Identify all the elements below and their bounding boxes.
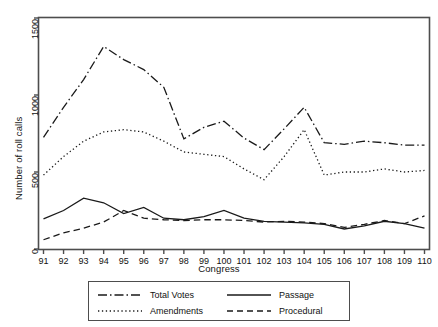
x-tick-label: 110 xyxy=(417,256,433,266)
x-tick-label: 106 xyxy=(336,256,352,266)
x-tick-label: 98 xyxy=(176,256,192,266)
x-tick-label: 91 xyxy=(36,256,52,266)
y-axis-title-wrap: Number of roll calls xyxy=(0,0,16,260)
y-axis-title: Number of roll calls xyxy=(13,117,24,200)
chart-figure: Number of roll calls Congress 0500100015… xyxy=(0,0,438,327)
x-tick-label: 102 xyxy=(256,256,272,266)
y-tick-label: 1500 xyxy=(30,19,40,39)
y-tick-label: 1000 xyxy=(30,96,40,116)
legend-item-procedural: Procedural xyxy=(226,303,323,319)
x-tick-label: 93 xyxy=(76,256,92,266)
legend-item-total-votes: Total Votes xyxy=(97,287,194,303)
y-tick-label: 0 xyxy=(30,249,40,254)
plot-canvas xyxy=(0,0,438,327)
data-series-group xyxy=(44,46,425,239)
x-tick-label: 96 xyxy=(136,256,152,266)
legend-label: Total Votes xyxy=(150,290,194,300)
legend-label: Passage xyxy=(279,290,314,300)
chart-legend: Total Votes Passage Amendments Procedura… xyxy=(88,281,350,321)
x-tick-label: 103 xyxy=(276,256,292,266)
legend-item-amendments: Amendments xyxy=(97,303,203,319)
x-tick-label: 95 xyxy=(116,256,132,266)
dashdot-line-key xyxy=(97,288,143,302)
legend-label: Amendments xyxy=(150,306,203,316)
x-tick-label: 99 xyxy=(196,256,212,266)
x-tick-label: 105 xyxy=(316,256,332,266)
x-tick-label: 100 xyxy=(216,256,232,266)
y-tick-label: 500 xyxy=(30,173,40,188)
x-tick-label: 104 xyxy=(296,256,312,266)
x-tick-label: 101 xyxy=(236,256,252,266)
x-tick-label: 94 xyxy=(96,256,112,266)
dashed-line-key xyxy=(226,304,272,318)
dotted-line-key xyxy=(97,304,143,318)
solid-line-key xyxy=(226,288,272,302)
x-tick-label: 97 xyxy=(156,256,172,266)
legend-item-passage: Passage xyxy=(226,287,314,303)
legend-label: Procedural xyxy=(279,306,323,316)
series-line-total-votes xyxy=(44,46,425,149)
x-tick-label: 108 xyxy=(376,256,392,266)
x-tick-label: 107 xyxy=(356,256,372,266)
x-tick-label: 92 xyxy=(56,256,72,266)
series-line-amendments xyxy=(44,130,425,180)
x-tick-label: 109 xyxy=(396,256,412,266)
